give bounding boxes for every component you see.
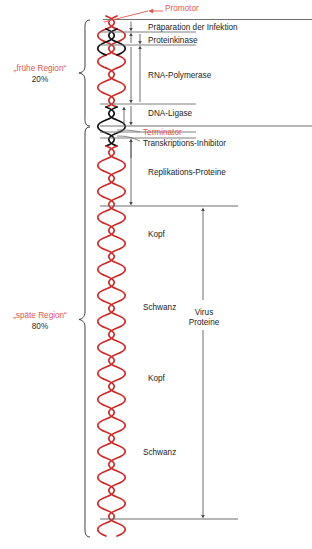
label-rna-polymerase: RNA-Polymerase: [148, 71, 211, 81]
region-late-percent: 80%: [32, 322, 48, 331]
gene-boundary-rules: [100, 20, 312, 520]
virus-proteine-line1: Virus: [195, 308, 214, 317]
label-transkriptions-inhibitor: Transkriptions-Inhibitor: [143, 139, 226, 149]
label-replikations-proteine: Replikations-Proteine: [148, 168, 226, 178]
label-promotor: Promotor: [165, 4, 199, 14]
figure-canvas: Promotor Präparation der Infektion Prote…: [0, 0, 312, 549]
gene-extent-arrows: [124, 22, 140, 205]
label-schwanz-2: Schwanz: [143, 448, 176, 458]
region-early-name: „frühe Region“: [14, 64, 66, 73]
label-virus-proteine: Virus Proteine: [182, 308, 226, 328]
region-braces: [79, 20, 90, 537]
region-label-late: „späte Region“ 80%: [6, 310, 74, 332]
label-terminator: Terminator: [143, 128, 182, 138]
label-praeparation-der-infektion: Präparation der Infektion: [148, 23, 238, 33]
label-dna-ligase: DNA-Ligase: [148, 109, 192, 119]
region-label-early: „frühe Region“ 20%: [6, 63, 74, 85]
label-proteinkinase: Proteinkinase: [148, 36, 198, 46]
label-kopf-1: Kopf: [148, 230, 165, 240]
label-kopf-2: Kopf: [148, 374, 165, 384]
region-late-name: „späte Region“: [13, 311, 67, 320]
region-early-percent: 20%: [32, 75, 48, 84]
virus-proteine-line2: Proteine: [189, 318, 220, 327]
label-schwanz-1: Schwanz: [143, 303, 176, 313]
dna-helix: [98, 16, 126, 536]
